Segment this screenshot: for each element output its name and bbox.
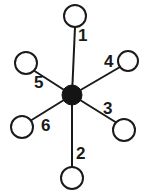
spoke-label-1: 1 [78,26,87,45]
spoke-label-4: 4 [104,52,114,71]
node-circle-3[interactable] [113,119,135,141]
six-spoke-node-diagram: 1 2 3 4 5 6 [0,0,145,193]
node-circle-2[interactable] [61,167,83,189]
node-circle-4[interactable] [118,51,138,71]
diagram-canvas: 1 2 3 4 5 6 [0,0,145,193]
spoke-label-3: 3 [103,99,112,118]
node-circle-6[interactable] [11,116,33,138]
center-hub-node[interactable] [62,85,82,105]
center-hub-group [62,85,82,105]
spoke-label-6: 6 [41,116,50,135]
spoke-label-2: 2 [76,144,85,163]
node-circle-5[interactable] [15,52,37,74]
node-circle-1[interactable] [64,5,86,27]
spoke-label-5: 5 [34,73,43,92]
